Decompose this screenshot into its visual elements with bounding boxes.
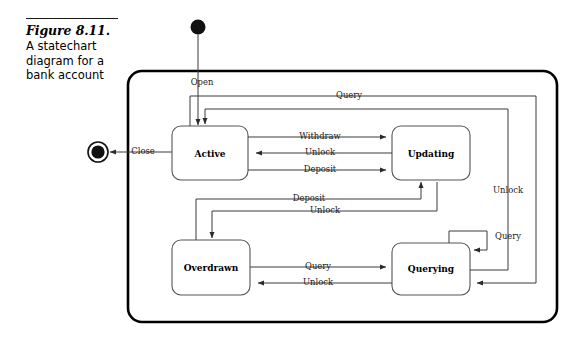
state-active-label: Active <box>194 149 226 159</box>
state-querying[interactable]: Querying <box>392 243 470 295</box>
edge-label-open: Open <box>191 77 214 87</box>
edge-label-unlock-right: Unlock <box>493 185 524 195</box>
edge-label-unlock-updating-overdrawn: Unlock <box>310 205 341 215</box>
edge-label-query-top: Query <box>336 90 362 100</box>
initial-state-icon <box>191 20 206 35</box>
edge-label-withdraw: Withdraw <box>299 131 341 141</box>
edge-label-deposit-overdrawn-updating: Deposit <box>293 193 326 203</box>
state-active[interactable]: Active <box>172 126 248 180</box>
edge-label-query-self: Query <box>495 231 521 241</box>
edge-label-deposit-active-updating: Deposit <box>304 164 337 174</box>
state-overdrawn-label: Overdrawn <box>184 263 239 273</box>
edge-label-unlock-updating-active: Unlock <box>305 147 336 157</box>
state-querying-label: Querying <box>408 264 455 274</box>
state-updating-label: Updating <box>408 149 455 159</box>
edge-label-close: Close <box>131 146 154 156</box>
state-updating[interactable]: Updating <box>392 126 470 180</box>
final-state-icon <box>91 145 104 158</box>
state-overdrawn[interactable]: Overdrawn <box>172 240 250 295</box>
statechart-diagram: Open Close Active Updating Overdrawn Que… <box>0 0 582 342</box>
edge-label-unlock-querying-overdrawn: Unlock <box>303 277 334 287</box>
figure-page: Figure 8.11. A statechart diagram for a … <box>0 0 582 342</box>
edge-label-query-overdrawn-querying: Query <box>305 261 331 271</box>
